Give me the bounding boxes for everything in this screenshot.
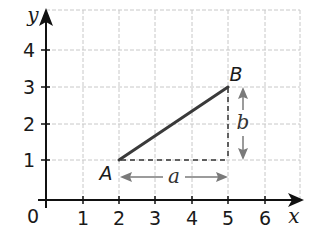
y-axis-label: y bbox=[26, 3, 39, 27]
x-tick-1: 1 bbox=[77, 207, 89, 229]
x-tick-2: 2 bbox=[113, 207, 125, 229]
y-tick-1: 1 bbox=[23, 149, 35, 171]
coordinate-diagram: 0 1 2 3 4 5 6 x 1 2 3 4 y A B a b bbox=[0, 0, 318, 243]
dimension-a-label: a bbox=[168, 164, 180, 188]
y-tick-2: 2 bbox=[23, 113, 35, 135]
x-axis-label: x bbox=[288, 204, 299, 228]
y-axis bbox=[39, 8, 53, 208]
origin-label: 0 bbox=[27, 205, 39, 227]
x-axis bbox=[38, 193, 304, 207]
y-tick-3: 3 bbox=[23, 76, 35, 98]
dimension-b-label: b bbox=[237, 110, 250, 134]
point-b-label: B bbox=[229, 63, 242, 85]
dimension-a: a bbox=[120, 164, 228, 188]
x-tick-6: 6 bbox=[259, 207, 271, 229]
point-a-label: A bbox=[98, 162, 113, 184]
x-tick-4: 4 bbox=[186, 207, 198, 229]
dimension-b: b bbox=[237, 87, 250, 160]
x-tick-5: 5 bbox=[222, 207, 234, 229]
x-tick-3: 3 bbox=[149, 207, 161, 229]
y-tick-4: 4 bbox=[23, 39, 35, 61]
